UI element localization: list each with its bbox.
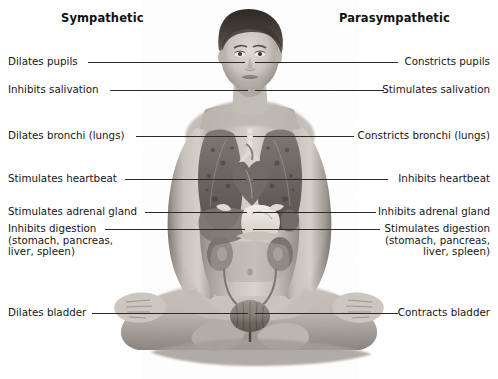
leader-line-sympathetic-6 bbox=[92, 313, 248, 314]
figure-body bbox=[114, 0, 384, 379]
parasympathetic-label: Stimulates salivation bbox=[382, 84, 490, 96]
leader-line-parasympathetic-5 bbox=[253, 229, 380, 230]
column-title-parasympathetic: Parasympathetic bbox=[339, 11, 450, 25]
bladder bbox=[230, 300, 270, 332]
pupil-left bbox=[238, 52, 242, 56]
sympathetic-label: Inhibits digestion (stomach, pancreas, l… bbox=[8, 223, 113, 258]
parasympathetic-label: Constricts bronchi (lungs) bbox=[358, 130, 490, 142]
leader-line-sympathetic-3 bbox=[125, 179, 246, 180]
sympathetic-label: Stimulates adrenal gland bbox=[8, 206, 137, 218]
ureter-right bbox=[259, 268, 276, 308]
legs bbox=[121, 280, 377, 366]
parasympathetic-label: Constricts pupils bbox=[404, 56, 490, 68]
sympathetic-label: Stimulates heartbeat bbox=[8, 173, 117, 185]
leader-line-parasympathetic-0 bbox=[255, 62, 398, 63]
parasympathetic-label: Inhibits heartbeat bbox=[398, 173, 490, 185]
parasympathetic-label: Inhibits adrenal gland bbox=[378, 206, 490, 218]
kidneys bbox=[207, 237, 293, 271]
organ-overlay bbox=[198, 122, 302, 284]
ureter-left bbox=[224, 268, 241, 308]
pancreas bbox=[236, 232, 280, 241]
hand-right bbox=[333, 293, 384, 323]
parasympathetic-label: Contracts bladder bbox=[398, 307, 490, 319]
adrenal-glands bbox=[216, 204, 284, 211]
hand-left bbox=[114, 293, 165, 323]
sympathetic-label: Dilates bronchi (lungs) bbox=[8, 130, 125, 142]
leader-line-parasympathetic-4 bbox=[253, 212, 376, 213]
leader-line-sympathetic-2 bbox=[136, 136, 247, 137]
urinary-tract bbox=[224, 268, 276, 342]
pupil-right bbox=[258, 52, 262, 56]
arms bbox=[114, 128, 384, 323]
sympathetic-label: Inhibits salivation bbox=[8, 84, 99, 96]
sympathetic-label: Dilates pupils bbox=[8, 56, 78, 68]
head bbox=[218, 9, 283, 91]
autonomic-nervous-system-diagram: Sympathetic Parasympathetic Dilates pupi… bbox=[0, 0, 498, 379]
stomach bbox=[241, 205, 280, 244]
navel bbox=[247, 269, 252, 276]
leader-line-sympathetic-5 bbox=[105, 229, 245, 230]
torso bbox=[193, 104, 307, 296]
leader-line-sympathetic-1 bbox=[110, 90, 248, 91]
leader-line-sympathetic-4 bbox=[145, 212, 247, 213]
heart bbox=[232, 144, 269, 206]
leader-line-parasympathetic-2 bbox=[253, 136, 354, 137]
parasympathetic-label: Stimulates digestion (stomach, pancreas,… bbox=[384, 223, 490, 258]
leader-line-parasympathetic-6 bbox=[255, 313, 398, 314]
leader-line-parasympathetic-1 bbox=[255, 90, 384, 91]
trachea-bronchi bbox=[238, 122, 262, 166]
leader-line-sympathetic-0 bbox=[88, 62, 245, 63]
intestines bbox=[211, 242, 290, 285]
leader-line-parasympathetic-3 bbox=[253, 179, 388, 180]
sympathetic-label: Dilates bladder bbox=[8, 307, 86, 319]
column-title-sympathetic: Sympathetic bbox=[61, 11, 144, 25]
